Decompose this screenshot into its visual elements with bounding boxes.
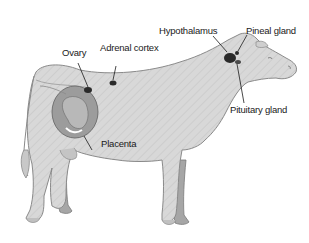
placenta-label: Placenta [101,138,136,149]
pineal-gland [235,51,239,55]
hypothalamus-label: Hypothalamus [159,25,217,36]
pituitary-gland-label: Pituitary gland [230,104,287,115]
cow-diagram [0,0,309,243]
hypothalamus-gland [224,53,236,63]
ovary-label: Ovary [62,47,86,58]
pituitary-gland [235,60,241,64]
pineal-gland-label: Pineal gland [246,25,296,36]
adrenal-cortex-gland [110,81,117,86]
ovary-gland [84,87,92,93]
adrenal-cortex-label: Adrenal cortex [100,42,158,53]
